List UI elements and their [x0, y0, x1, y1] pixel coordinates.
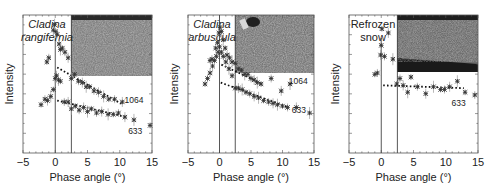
photo-inset	[71, 15, 152, 76]
x-axis-label: Phase angle (°)	[213, 171, 289, 183]
series-label: 633	[452, 98, 466, 108]
x-tick-label: 15	[472, 156, 484, 168]
x-tick-label: 5	[410, 156, 416, 168]
x-tick-label: −5	[182, 156, 195, 168]
x-tick-label: −5	[343, 156, 356, 168]
panel-title-line: rangifernia	[21, 31, 73, 43]
x-tick-label: 10	[114, 156, 126, 168]
x-tick-label: 10	[440, 156, 452, 168]
x-axis-label: Phase angle (°)	[50, 171, 126, 183]
series-label: 633	[292, 105, 306, 115]
x-tick-label: 5	[84, 156, 90, 168]
series-label: 1064	[124, 95, 143, 105]
series-label: 1064	[289, 76, 308, 86]
x-tick-label: 0	[216, 156, 222, 168]
y-axis-label: Intensity	[3, 63, 15, 104]
panel-title-line: arbuscula	[188, 31, 236, 43]
panel-cladina-rangiferina: −5051015Phase angle (°)IntensityCladinar…	[3, 15, 158, 183]
photo-inset	[235, 15, 314, 73]
x-tick-label: 0	[378, 156, 384, 168]
panel-title-line: snow	[360, 31, 386, 43]
x-tick-label: 5	[248, 156, 254, 168]
panel-title-line: Cladina	[28, 18, 65, 30]
y-axis-label: Intensity	[168, 63, 180, 104]
panel-title-line: Cladina	[193, 18, 230, 30]
panel-cladina-arbuscula: −5051015Phase angle (°)IntensityCladinaa…	[168, 15, 320, 183]
photo-inset	[397, 15, 478, 72]
x-tick-label: 0	[52, 156, 58, 168]
series-label: 633	[128, 126, 142, 136]
panel-refrozen-snow: −5051015Phase angle (°)IntensityRefrozen…	[329, 15, 484, 183]
x-tick-label: 10	[276, 156, 288, 168]
x-tick-label: −5	[17, 156, 30, 168]
x-axis-label: Phase angle (°)	[376, 171, 452, 183]
x-tick-label: 15	[308, 156, 320, 168]
figure-canvas: −5051015Phase angle (°)IntensityCladinar…	[0, 0, 490, 195]
x-tick-label: 15	[146, 156, 158, 168]
y-axis-label: Intensity	[329, 63, 341, 104]
